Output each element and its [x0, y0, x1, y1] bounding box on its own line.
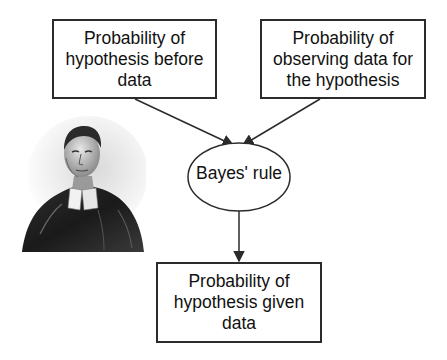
bayes-diagram: Probability of hypothesis before data Pr…: [0, 0, 447, 360]
thomas-bayes-portrait: [18, 114, 146, 254]
arrow-likelihood-to-bayes: [243, 99, 320, 145]
prior-probability-box: Probability of hypothesis before data: [52, 19, 217, 99]
likelihood-box: Probability of observing data for the hy…: [260, 19, 426, 99]
prior-probability-label: Probability of hypothesis before data: [65, 28, 203, 91]
bayes-rule-label: Bayes' rule: [188, 163, 290, 184]
posterior-probability-label: Probability of hypothesis given data: [174, 271, 304, 334]
arrow-prior-to-bayes: [135, 99, 233, 145]
posterior-probability-box: Probability of hypothesis given data: [156, 262, 322, 343]
likelihood-label: Probability of observing data for the hy…: [273, 28, 413, 91]
